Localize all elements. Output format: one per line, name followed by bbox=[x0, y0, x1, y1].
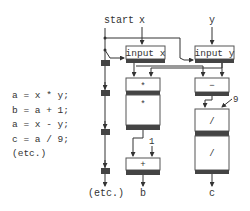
start-label: start bbox=[104, 15, 134, 26]
etc-label: (etc.) bbox=[88, 188, 124, 199]
svg-text:input y: input y bbox=[195, 48, 235, 59]
const-9-label: 9 bbox=[233, 95, 238, 105]
input-y-node: input y bbox=[195, 46, 235, 63]
subtract-node: − bbox=[195, 78, 229, 96]
add-node: + bbox=[126, 158, 160, 175]
b-output-label: b bbox=[140, 188, 146, 199]
svg-text:/: / bbox=[209, 149, 214, 159]
y-label: y bbox=[209, 15, 215, 26]
dataflow-diagram: start x y input x input y bbox=[0, 0, 250, 211]
svg-text:input x: input x bbox=[126, 48, 166, 59]
x-label: x bbox=[139, 15, 145, 26]
svg-text:*: * bbox=[140, 82, 145, 92]
control-token bbox=[101, 129, 110, 135]
svg-text:−: − bbox=[209, 81, 214, 91]
const-1-label: 1 bbox=[149, 137, 154, 147]
svg-text:*: * bbox=[140, 100, 145, 110]
divide-node: / / bbox=[195, 109, 229, 174]
control-token bbox=[101, 90, 110, 96]
control-token bbox=[101, 60, 110, 66]
c-output-label: c bbox=[209, 188, 215, 199]
control-token bbox=[101, 168, 110, 174]
input-x-node: input x bbox=[126, 46, 166, 63]
svg-text:+: + bbox=[140, 160, 145, 170]
junction-dot bbox=[104, 37, 107, 40]
junction-dot bbox=[104, 49, 107, 52]
multiply-node: * * bbox=[126, 78, 160, 130]
svg-text:/: / bbox=[209, 117, 214, 127]
